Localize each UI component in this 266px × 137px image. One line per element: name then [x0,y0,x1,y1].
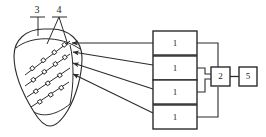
channel-block-3-label: 1 [173,87,178,97]
leaf-shaped-organ-outline [14,29,82,126]
output-block-label: 5 [246,71,251,81]
processor-block-label: 2 [218,71,223,81]
channel-block-4-label: 1 [173,112,178,122]
channel-block-1-label: 1 [173,38,178,48]
organ-right-fold [70,45,73,104]
electrode-string-4 [31,82,69,107]
organ-lower-crease [34,104,70,115]
electrode-string-3 [27,68,70,97]
callout-4-label: 4 [57,4,62,15]
channel-block-3[interactable]: 1 [153,80,197,104]
organ-body-path [14,29,82,126]
bus-wire-3 [197,79,211,92]
lead-wire-3 [73,63,153,89]
diagram-svg: 3 4 [0,0,266,137]
lead-wire-2 [73,52,153,65]
electrode-array [25,41,70,107]
electrode-bead [30,66,35,71]
channel-block-1[interactable]: 1 [153,31,197,55]
processor-block[interactable]: 2 [211,67,230,86]
lead-wire-4 [73,74,153,113]
figure-canvas: 3 4 [0,0,266,137]
channel-block-2-label: 1 [173,63,178,73]
output-block[interactable]: 5 [239,67,257,86]
channel-block-2[interactable]: 1 [153,56,197,80]
channel-block-4[interactable]: 1 [153,105,197,129]
callout-3-label: 3 [35,4,40,15]
bus-wire-1 [197,43,218,68]
bus-wire-2 [197,68,211,74]
organ-to-channel-leads [72,43,153,113]
